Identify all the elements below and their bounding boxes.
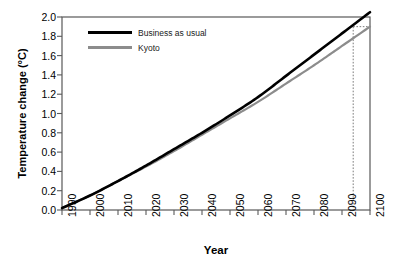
x-axis-title: Year: [62, 244, 370, 256]
chart-figure: 2.0 1.8 1.6 1.4 1.2 1.0 0.8 0.6 0.4 0.2 …: [0, 0, 393, 266]
legend-swatch-kyoto: [88, 46, 132, 49]
x-tick-label: 2040: [206, 194, 218, 217]
x-tick-label: 2100: [374, 194, 386, 217]
x-tick-label: 2080: [318, 194, 330, 217]
x-tick-label: 2020: [150, 194, 162, 217]
legend-swatch-business-as-usual: [88, 31, 132, 34]
x-tick-label: 2030: [178, 194, 190, 217]
x-tick-label: 2060: [262, 194, 274, 217]
x-tick-label: 1990: [66, 194, 78, 217]
x-tick-label: 2090: [346, 194, 358, 217]
legend-label: Business as usual: [138, 28, 207, 38]
legend-item-business-as-usual: Business as usual: [88, 26, 268, 39]
legend-item-kyoto: Kyoto: [88, 41, 268, 54]
x-tick-label: 2050: [234, 194, 246, 217]
legend-label: Kyoto: [138, 43, 160, 53]
x-tick-label: 2000: [94, 194, 106, 217]
x-tick-label: 2010: [122, 194, 134, 217]
x-tick-label: 2070: [290, 194, 302, 217]
chart-legend: Business as usual Kyoto: [88, 26, 268, 56]
